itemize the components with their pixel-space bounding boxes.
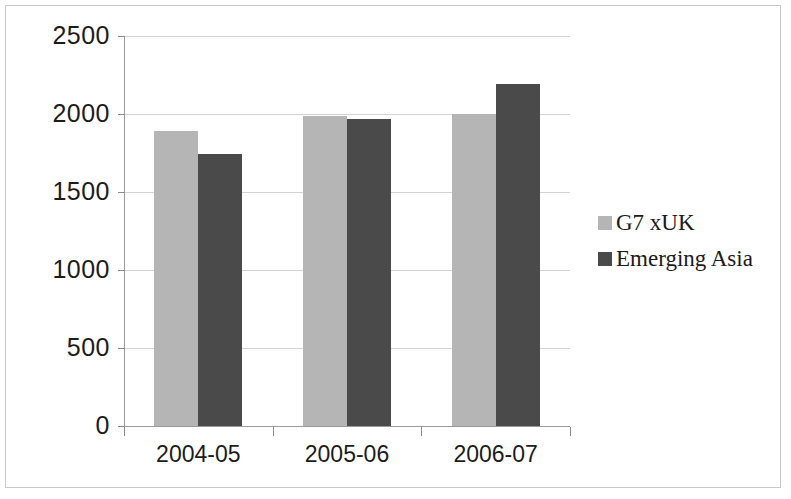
legend-item: Emerging Asia (598, 247, 788, 270)
chart-legend: G7 xUKEmerging Asia (598, 211, 788, 283)
y-axis-tick-label: 1500 (6, 179, 110, 204)
x-axis-tick (273, 427, 274, 436)
y-axis-tick-label: 1000 (6, 257, 110, 282)
x-axis-tick (570, 427, 571, 436)
x-axis-tick-label: 2004-05 (123, 443, 273, 466)
y-axis-tick-label: 0 (6, 413, 110, 438)
legend-item: G7 xUK (598, 211, 788, 234)
legend-swatch-icon (598, 252, 612, 266)
legend-swatch-icon (598, 216, 612, 230)
bar-2004-05-emerging-asia (198, 154, 242, 426)
x-axis-tick-label: 2006-07 (421, 443, 571, 466)
gridline (124, 426, 570, 427)
legend-label: Emerging Asia (616, 247, 753, 270)
bar-2005-06-emerging-asia (347, 119, 391, 426)
bar-2006-07-emerging-asia (496, 84, 540, 426)
chart-frame: 25002000150010005000 2004-052005-062006-… (5, 5, 781, 488)
plot-area (124, 36, 570, 426)
legend-label: G7 xUK (616, 211, 695, 234)
bar-2006-07-g7-xuk (452, 114, 496, 426)
x-axis-tick (421, 427, 422, 436)
y-axis-tick-label: 2500 (6, 23, 110, 48)
bar-2004-05-g7-xuk (154, 131, 198, 426)
y-axis-tick-label: 2000 (6, 101, 110, 126)
bar-2005-06-g7-xuk (303, 116, 347, 426)
y-axis-tick-label: 500 (6, 335, 110, 360)
x-axis-tick (124, 427, 125, 436)
x-axis-tick-label: 2005-06 (272, 443, 422, 466)
